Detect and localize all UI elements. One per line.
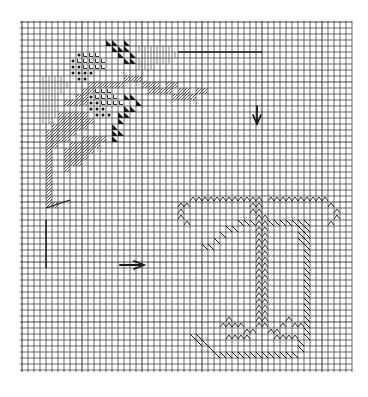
dot-stitch bbox=[96, 114, 99, 117]
dot-stitch bbox=[72, 66, 75, 69]
dot-stitch bbox=[84, 72, 87, 75]
dot-stitch bbox=[72, 72, 75, 75]
dot-stitch bbox=[78, 66, 81, 69]
dot-stitch bbox=[108, 114, 111, 117]
dot-stitch bbox=[96, 108, 99, 111]
dot-stitch bbox=[78, 72, 81, 75]
dot-stitch bbox=[90, 108, 93, 111]
dot-stitch bbox=[96, 102, 99, 105]
dot-stitch bbox=[84, 78, 87, 81]
dot-stitch bbox=[78, 54, 81, 57]
dot-stitch bbox=[102, 108, 105, 111]
dot-stitch bbox=[72, 60, 75, 63]
dot-stitch bbox=[102, 114, 105, 117]
dot-stitch bbox=[90, 72, 93, 75]
stitch-chart bbox=[0, 0, 368, 397]
dot-stitch bbox=[90, 102, 93, 105]
dot-stitch bbox=[90, 96, 93, 99]
dot-stitch bbox=[78, 78, 81, 81]
